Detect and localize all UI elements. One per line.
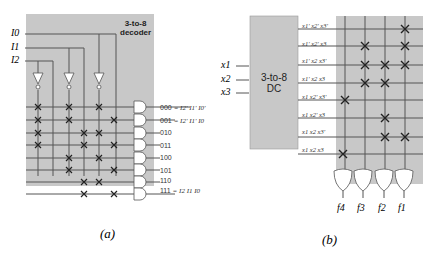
decoder-title-a: 3-to-8 decoder [120,19,151,37]
input-label-x3: x3 [221,86,230,97]
minterm-0: x1' x2' x3' [302,17,328,35]
minterm-3: x1' x2 x3 [302,70,328,88]
input-label-x2: x2 [221,73,230,84]
input-label-i1: I1 [11,41,19,52]
dc-block-label: 3-to-8 DC [250,72,298,94]
diagram-canvas [0,0,439,256]
output-100: 100 [160,152,206,165]
minterm-6: x1 x2 x3' [302,123,328,141]
minterm-4: x1 x2' x3' [302,88,328,106]
output-label-f4: f4 [337,202,345,213]
output-000: 000 = I2' I1' I0' [160,102,206,115]
minterm-7: x1 x2 x3 [302,141,328,159]
output-110: 110 [160,177,206,185]
panel-b [236,16,423,198]
output-labels-a: 000 = I2' I1' I0' 001 = I2' I1' I0 010 0… [160,102,206,198]
input-label-i0: I0 [11,27,19,38]
minterm-2: x1' x2 x3' [302,52,328,70]
caption-a: (a) [100,226,115,242]
input-label-x1: x1 [221,59,230,70]
output-label-f3: f3 [357,202,365,213]
minterm-list: x1' x2' x3' x1' x2' x3 x1' x2 x3' x1' x2… [302,17,328,159]
output-011: 011 [160,140,206,153]
input-label-i2: I2 [11,54,19,65]
output-101: 101 [160,165,206,178]
output-label-f1: f1 [398,202,406,213]
minterm-5: x1 x2' x3 [302,106,328,124]
minterm-1: x1' x2' x3 [302,35,328,53]
output-010: 010 [160,127,206,140]
output-label-f2: f2 [378,202,386,213]
output-111: 111 = I2 I1 I0 [160,185,206,198]
output-001: 001 = I2' I1' I0 [160,115,206,128]
caption-b: (b) [322,232,337,248]
